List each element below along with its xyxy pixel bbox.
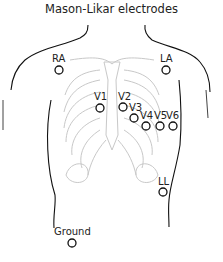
electrode-la: [162, 66, 170, 74]
label-v1: V1: [94, 92, 107, 102]
label-v6: V6: [166, 111, 179, 121]
label-ll: LL: [158, 177, 169, 187]
diagram-title: Mason-Likar electrodes: [0, 2, 223, 16]
electrode-v3: [130, 114, 138, 122]
label-v2: V2: [118, 92, 131, 102]
electrode-v5: [156, 122, 164, 130]
electrode-ra: [55, 66, 63, 74]
electrode-v1: [96, 104, 104, 112]
label-v4: V4: [140, 111, 153, 121]
electrode-v2: [119, 103, 127, 111]
diagram: Mason-Likar electrodes RA LA V1 V2 V3 V4…: [0, 0, 223, 262]
label-ground: Ground: [54, 227, 91, 237]
torso-outline: [0, 0, 223, 262]
electrode-ll: [159, 188, 167, 196]
label-ra: RA: [52, 54, 65, 64]
label-la: LA: [160, 54, 173, 64]
electrode-ground: [68, 239, 76, 247]
electrode-v4: [142, 122, 150, 130]
electrode-v6: [169, 122, 177, 130]
